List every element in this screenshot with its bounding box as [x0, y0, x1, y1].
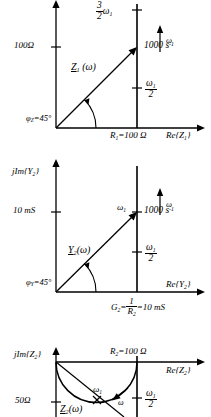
phi-value: =45° [34, 277, 52, 287]
phi-value: =45° [34, 113, 52, 123]
frac-den: 2 [145, 400, 157, 410]
frac-den: 2 [145, 90, 157, 100]
z2-real-tick-label: R2=100 Ω [110, 347, 147, 357]
omega-glyph: ω [146, 242, 153, 252]
y2-marker-1000s: 1000 s-1 [144, 206, 174, 216]
re-sub: 2 [184, 370, 187, 376]
z1-marker-three-half-omega: 32ω1 [96, 1, 112, 21]
omega-glyph: ω [146, 78, 153, 88]
re-text: Re{Y [166, 279, 184, 289]
jim-text: jIm{Z [14, 349, 35, 359]
z1-real-axis-label: Re{Z1} [166, 131, 191, 141]
omega-sub: 1 [153, 393, 156, 399]
y2-marker-omega1: ω1 [117, 203, 126, 213]
y2-marker-half-omega: ω12 [145, 243, 157, 263]
omega-glyph: ω [146, 388, 153, 398]
z-arg: (ω) [82, 61, 96, 72]
z2-marker-omega1: ω1 [93, 385, 102, 395]
figure-root: 100Ω 32ω1 ω 1000 s-1 ω12 Z1 (ω) φZ=45° R… [0, 0, 211, 417]
omega-sub: 1 [109, 11, 112, 17]
y2-real-axis-label: Re{Y2} [166, 280, 191, 290]
jim-sub: 2 [33, 171, 36, 177]
re-text: Re{Z [166, 130, 184, 140]
omega-sub: 1 [99, 389, 102, 395]
z1-marker-half-omega: ω12 [145, 79, 157, 99]
y2-imag-tick-label: 10 mS [13, 206, 35, 215]
plot-y2-geometry [51, 159, 205, 296]
y-arg: (ω) [77, 244, 91, 255]
y2-angle-label: φY=45° [26, 278, 51, 288]
z1-curve-label: Z1 (ω) [71, 62, 96, 73]
r1-value: =100 Ω [118, 130, 146, 140]
thousand-s-text: 1000 s [144, 205, 169, 215]
re-text: Re{Z [166, 365, 184, 375]
exponent-minus-one: -1 [169, 206, 174, 212]
jim-text: jIm{Y [12, 166, 33, 176]
re-sub: 1 [184, 135, 187, 141]
z2-arg: (ω) [69, 403, 83, 414]
z2-imag-axis-label: jIm{Z2} [14, 350, 41, 360]
z2-curve-label: Z2(ω) [60, 404, 82, 415]
z1-real-tick-label: R1=100 Ω [110, 131, 147, 141]
frac-den: 2 [145, 254, 157, 264]
y2-conductance-label: G2=1R2=10 mS [111, 297, 165, 317]
z1-imag-tick-label: 100Ω [14, 41, 34, 50]
z2-real-axis-label: Re{Z2} [166, 366, 191, 376]
z1-marker-1000s: 1000 s-1 [144, 41, 174, 51]
g2-value: =10 mS [137, 302, 165, 312]
z2-imag-tick-label: 50Ω [15, 396, 31, 405]
re-sub: 2 [184, 284, 187, 290]
z2-marker-half-omega: ω12 [145, 389, 157, 409]
r2-value: =100 Ω [118, 346, 146, 356]
exponent-minus-one: -1 [169, 41, 174, 47]
thousand-s-text: 1000 s [144, 40, 169, 50]
frac-den: R2 [126, 307, 136, 317]
jim-sub: 2 [35, 354, 38, 360]
omega-sub: 1 [153, 83, 156, 89]
frac-den: 2 [96, 12, 103, 22]
z2-omega-arrow-label: ω [118, 399, 124, 407]
z-sub: 1 [77, 66, 80, 73]
r2-sub: 2 [133, 311, 136, 317]
y2-curve-label: Y2(ω) [68, 245, 90, 256]
omega-sub: 1 [123, 207, 126, 213]
y2-imag-axis-label: jIm{Y2} [12, 167, 39, 177]
omega-sub: 1 [153, 247, 156, 253]
z1-angle-label: φZ=45° [26, 114, 51, 124]
